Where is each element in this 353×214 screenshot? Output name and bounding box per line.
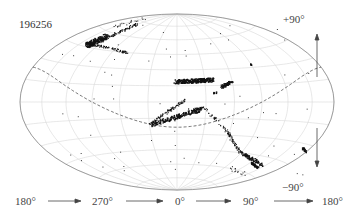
north-pole-label: +90° [283,14,305,25]
south-pole-label: −90° [282,182,304,193]
lon-label-270: 270° [92,196,113,207]
north-arrow-icon [315,34,319,77]
data-points [62,18,309,176]
lon-label-180-left: 180° [15,196,36,207]
lon-label-90: 90° [243,196,258,207]
lon-label-0: 0° [175,196,185,207]
lon-label-180-right: 180° [322,196,343,207]
chart-id-label: 196256 [19,19,52,30]
coordinate-grid [20,14,334,190]
south-arrow-icon [315,128,319,167]
